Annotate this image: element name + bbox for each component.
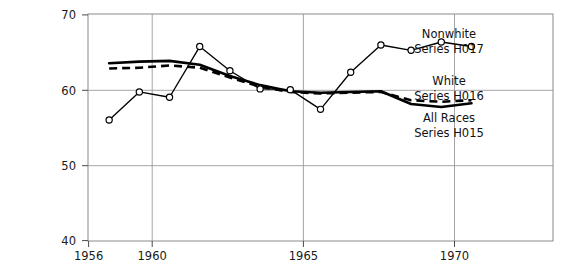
legend-nonwhite-code: Series H017 bbox=[414, 42, 484, 56]
data-point-nonwhite bbox=[136, 89, 142, 95]
legend-all-races-name: All Races bbox=[423, 111, 475, 125]
data-point-nonwhite bbox=[106, 117, 112, 123]
data-point-nonwhite bbox=[287, 87, 293, 93]
line-chart: 70 60 50 40 1956 1960 1965 1970 bbox=[0, 0, 562, 271]
x-axis-ticks bbox=[89, 241, 455, 247]
data-point-nonwhite bbox=[257, 86, 263, 92]
legend-all-races-code: Series H015 bbox=[414, 126, 484, 140]
x-tick-label-1970: 1970 bbox=[440, 249, 469, 263]
x-tick-label-1960: 1960 bbox=[138, 249, 167, 263]
legend-all-races: All Races Series H015 bbox=[414, 111, 484, 140]
x-axis-labels: 1956 1960 1965 1970 bbox=[74, 249, 469, 263]
data-point-nonwhite bbox=[378, 42, 384, 48]
legend-white-name: White bbox=[432, 74, 465, 88]
data-point-nonwhite bbox=[317, 106, 323, 112]
data-point-nonwhite bbox=[348, 69, 354, 75]
legend-nonwhite-name: Nonwhite bbox=[422, 27, 476, 41]
data-point-nonwhite bbox=[166, 94, 172, 100]
y-tick-label-60: 60 bbox=[61, 84, 76, 98]
chart-canvas: 70 60 50 40 1956 1960 1965 1970 bbox=[0, 0, 562, 271]
x-tick-label-1956: 1956 bbox=[74, 249, 103, 263]
legend-white-code: Series H016 bbox=[414, 89, 484, 103]
legend-nonwhite: Nonwhite Series H017 bbox=[414, 27, 484, 56]
y-axis-labels: 70 60 50 40 bbox=[61, 8, 76, 248]
y-tick-label-70: 70 bbox=[61, 8, 76, 22]
y-axis-ticks bbox=[82, 15, 88, 241]
data-point-nonwhite bbox=[227, 68, 233, 74]
data-point-nonwhite bbox=[197, 43, 203, 49]
x-tick-label-1965: 1965 bbox=[289, 249, 318, 263]
y-tick-label-50: 50 bbox=[61, 159, 76, 173]
y-tick-label-40: 40 bbox=[61, 234, 76, 248]
